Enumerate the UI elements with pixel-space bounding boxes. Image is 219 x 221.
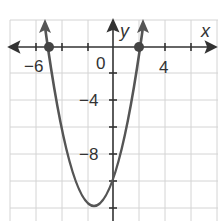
axes <box>9 20 216 221</box>
y-tick-label-neg8: −8 <box>79 146 98 163</box>
parabola-graph <box>0 0 219 221</box>
x-tick-label-neg6: −6 <box>24 58 43 75</box>
root-point-right <box>134 42 144 52</box>
root-point-left <box>44 42 54 52</box>
grid <box>10 20 218 221</box>
y-axis-arrow-up-icon <box>108 20 118 31</box>
y-tick-label-neg4: −4 <box>79 92 98 109</box>
x-tick-label-0: 0 <box>96 55 105 72</box>
parabola-curve <box>45 27 143 206</box>
x-tick-label-4: 4 <box>159 59 168 76</box>
y-axis-label: y <box>120 22 129 40</box>
x-axis-label: x <box>201 22 210 40</box>
x-axis-arrow-right-icon <box>206 42 216 52</box>
